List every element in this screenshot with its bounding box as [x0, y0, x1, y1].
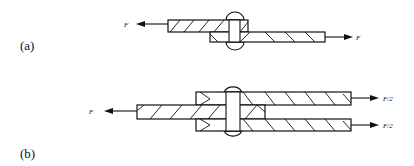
- force-arrow-bottom-right-b: F/2: [351, 122, 393, 130]
- middle-plate-b: [137, 105, 265, 119]
- force-label-b-bottom: F/2: [382, 122, 393, 130]
- force-arrow-left-b: F: [88, 108, 137, 116]
- riveted-joint-diagram: (a) F: [0, 0, 414, 166]
- panel-a: (a) F: [20, 12, 361, 53]
- rivet-head-bottom-a: [226, 42, 244, 50]
- panel-b-label: (b): [20, 146, 35, 161]
- bottom-plate-b: [196, 119, 351, 131]
- force-arrow-top-right-b: F/2: [351, 95, 393, 103]
- force-arrow-right-a: F: [325, 34, 361, 42]
- lower-plate-a: [210, 32, 325, 42]
- force-label-a-left: F: [123, 21, 129, 29]
- rivet-head-bottom-b: [224, 131, 242, 136]
- force-arrow-left-a: F: [123, 21, 168, 29]
- rivet-head-top-b: [224, 87, 242, 92]
- force-label-a-right: F: [355, 34, 361, 42]
- top-plate-b: [196, 92, 351, 105]
- panel-a-label: (a): [20, 38, 34, 53]
- force-label-b-left: F: [88, 108, 94, 116]
- force-label-b-top: F/2: [382, 95, 393, 103]
- rivet-shank-a: [229, 20, 240, 42]
- rivet-head-top-a: [226, 12, 244, 20]
- rivet-shank-b: [226, 92, 240, 131]
- panel-b: (b) F: [20, 87, 393, 161]
